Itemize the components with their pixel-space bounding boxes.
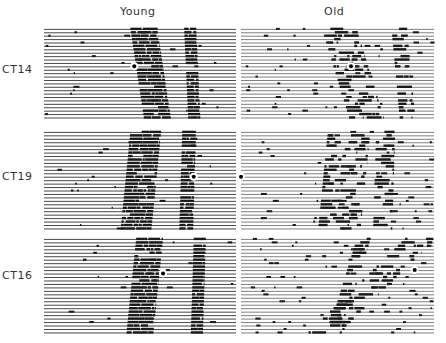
day-record	[241, 165, 434, 167]
activity-bout	[136, 52, 139, 54]
activity-bout	[138, 203, 146, 205]
activity-bout	[343, 207, 349, 209]
activity-bout	[127, 165, 140, 167]
activity-bout	[359, 293, 373, 295]
activity-bout	[162, 69, 163, 71]
activity-bout	[202, 317, 204, 319]
day-record	[44, 186, 236, 188]
activity-bout	[393, 172, 394, 174]
activity-bout	[159, 65, 163, 67]
day-record	[44, 196, 236, 198]
activity-bout	[350, 321, 351, 323]
activity-bout	[127, 162, 139, 164]
activity-bout	[191, 145, 197, 147]
activity-bout	[132, 38, 136, 40]
baseline	[44, 166, 236, 167]
activity-bout	[251, 286, 255, 288]
activity-bout	[378, 186, 383, 188]
activity-bout	[370, 131, 374, 133]
activity-bout	[360, 241, 369, 243]
activity-bout	[149, 245, 157, 247]
activity-bout	[180, 210, 192, 212]
activity-bout	[341, 172, 351, 174]
activity-bout	[48, 35, 50, 37]
activity-bout	[182, 155, 185, 157]
baseline	[241, 159, 434, 160]
activity-bout	[166, 269, 170, 271]
day-record	[241, 86, 434, 88]
activity-bout	[68, 69, 70, 71]
activity-bout	[376, 273, 382, 275]
activity-bout	[340, 189, 356, 191]
activity-bout	[247, 110, 251, 112]
activity-bout	[322, 189, 333, 191]
activity-bout	[139, 321, 154, 323]
activity-bout	[321, 200, 331, 202]
day-record	[44, 75, 236, 77]
activity-bout	[145, 290, 152, 292]
day-record	[241, 300, 434, 302]
baseline	[241, 197, 434, 198]
activity-bout	[144, 189, 147, 191]
activity-bout	[126, 227, 135, 229]
activity-bout	[147, 75, 158, 77]
day-record	[241, 241, 434, 243]
activity-bout	[405, 238, 407, 240]
activity-bout	[363, 96, 367, 98]
activity-bout	[381, 172, 387, 174]
activity-bout	[337, 65, 339, 67]
activity-bout	[256, 331, 259, 333]
activity-bout	[147, 210, 153, 212]
day-record	[241, 293, 434, 295]
activity-bout	[173, 65, 178, 67]
actogram-ct14-young	[44, 27, 236, 119]
activity-bout	[126, 276, 128, 278]
activity-bout	[185, 155, 189, 157]
activity-bout	[124, 196, 139, 198]
baseline	[241, 274, 434, 275]
activity-bout	[276, 96, 281, 98]
activity-bout	[364, 55, 365, 57]
day-record	[241, 69, 434, 71]
activity-bout	[187, 89, 194, 91]
activity-bout	[318, 162, 322, 164]
activity-bout	[344, 99, 349, 101]
day-record	[44, 297, 236, 299]
activity-bout	[382, 279, 393, 281]
activity-bout	[137, 69, 148, 71]
day-record	[44, 283, 236, 285]
activity-bout	[134, 293, 145, 295]
day-record	[241, 307, 434, 309]
activity-bout	[255, 318, 260, 320]
activity-bout	[204, 276, 205, 278]
day-record	[241, 58, 434, 60]
day-record	[241, 227, 434, 229]
activity-bout	[135, 58, 151, 60]
activity-bout	[396, 269, 400, 271]
baseline	[241, 53, 434, 54]
activity-bout	[430, 42, 434, 44]
day-record	[241, 217, 434, 219]
activity-bout	[399, 109, 406, 111]
activity-bout	[138, 307, 151, 309]
activity-bout	[182, 141, 196, 143]
activity-bout	[262, 217, 267, 219]
activity-bout	[261, 193, 267, 195]
activity-bout	[124, 200, 135, 202]
activity-bout	[189, 213, 193, 215]
activity-bout	[184, 28, 188, 30]
activity-bout	[302, 110, 308, 112]
activity-bout	[129, 144, 131, 146]
day-record	[241, 189, 434, 191]
activity-bout	[142, 55, 145, 57]
activity-bout	[167, 286, 173, 288]
activity-bout	[336, 72, 344, 74]
day-record	[241, 103, 434, 105]
activity-bout	[140, 193, 144, 195]
activity-bout	[375, 45, 380, 47]
day-record	[241, 245, 434, 247]
activity-bout	[338, 314, 341, 316]
activity-bout	[192, 48, 197, 50]
activity-bout	[114, 186, 116, 188]
activity-bout	[144, 245, 149, 247]
